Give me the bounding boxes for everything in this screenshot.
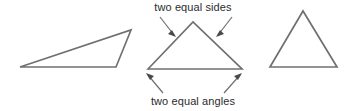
label-two-equal-angles: two equal angles xyxy=(151,95,236,107)
arrow-bottom-left-head xyxy=(146,73,154,80)
arrow-top-left-head xyxy=(168,30,176,37)
scalene-triangle xyxy=(20,30,131,67)
arrow-top-right xyxy=(216,17,232,37)
label-two-equal-sides: two equal sides xyxy=(154,1,232,13)
equilateral-triangle xyxy=(270,11,337,67)
arrow-top-left xyxy=(160,17,176,37)
figure-canvas: two equal sides two equal angles xyxy=(0,0,353,111)
arrow-bottom-right xyxy=(224,73,242,93)
isosceles-triangle xyxy=(148,22,242,69)
arrow-bottom-right-head xyxy=(234,73,242,80)
arrow-top-right-head xyxy=(216,30,224,37)
triangle-figure: two equal sides two equal angles xyxy=(0,0,353,111)
arrow-bottom-left xyxy=(146,73,163,93)
